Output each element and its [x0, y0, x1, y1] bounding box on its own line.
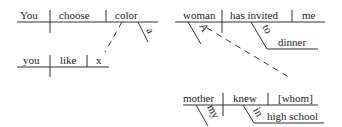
object-word: [whom] — [278, 92, 313, 104]
object-word: x — [96, 54, 102, 66]
verb-word: like — [60, 54, 77, 66]
right-relative-clause: mother knew [whom] my in high school — [183, 92, 324, 126]
right-diagram: woman has invited me A to dinner mother … — [175, 9, 325, 126]
prep-object-word: dinner — [278, 36, 306, 48]
left-diagram: You choose color a you like x — [17, 9, 158, 77]
verb-word: choose — [59, 9, 90, 21]
preposition-word: in — [251, 105, 266, 119]
left-main-clause: You choose color a — [17, 9, 158, 42]
left-relative-clause: you like x — [17, 54, 109, 77]
subject-word: You — [20, 9, 38, 21]
verb-word: has invited — [230, 9, 278, 21]
subject-word: you — [23, 54, 40, 66]
verb-word: knew — [233, 92, 257, 104]
object-word: color — [115, 9, 138, 21]
subject-word: mother — [183, 92, 214, 104]
modifier-word: a — [144, 25, 157, 35]
sentence-diagrams: You choose color a you like x woman has … — [0, 0, 342, 127]
preposition-word: to — [260, 22, 275, 36]
object-word: me — [302, 9, 316, 21]
right-main-clause: woman has invited me A to dinner — [175, 9, 325, 49]
prep-object-word: high school — [267, 110, 318, 122]
modifier-word: A — [197, 21, 211, 34]
subject-word: woman — [183, 9, 216, 21]
prep-slant — [243, 105, 254, 123]
relative-connector — [105, 22, 122, 52]
